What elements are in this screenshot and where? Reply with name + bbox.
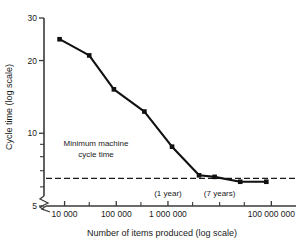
reference-line-label-line1: Minimum machine [64,139,129,148]
data-point-marker [142,109,147,114]
cycle-time-vs-volume-line-chart: 3020105 10 000100 0001 000 000100 000 00… [0,0,302,245]
chart-figure: 3020105 10 000100 0001 000 000100 000 00… [0,0,302,245]
y-axis-title: Cycle time (log scale) [4,64,14,150]
x-axis-annotation: (7 years) [204,189,236,198]
y-tick-label: 10 [28,128,38,138]
x-axis-annotation: (1 year) [154,189,182,198]
data-point-marker [112,87,117,92]
x-tick-label: 1 000 000 [149,209,187,219]
y-tick-label: 20 [28,56,38,66]
y-tick-label: 30 [28,13,38,23]
reference-line-label-line2: cycle time [78,150,114,159]
data-point-marker [238,179,243,184]
data-point-marker [197,173,202,178]
x-tick-label: 100 000 [101,209,132,219]
data-point-marker [212,175,217,180]
x-axis-title: Number of items produced (log scale) [87,228,237,238]
data-point-marker [264,179,269,184]
data-point-marker [170,144,175,149]
x-tick-label: 10 000 [52,209,78,219]
data-point-marker [57,37,62,42]
x-tick-label: 100 000 000 [248,209,296,219]
data-point-marker [87,53,92,58]
y-tick-label: 5 [32,201,37,211]
